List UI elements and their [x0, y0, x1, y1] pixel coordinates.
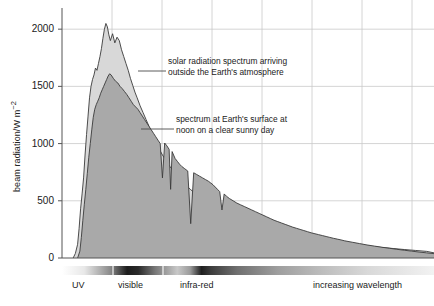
band-label-uv: UV: [72, 280, 85, 290]
annotation-line: solar radiation spectrum arriving: [168, 56, 287, 67]
annotation-line: spectrum at Earth's surface at: [176, 114, 287, 125]
y-axis-tick-500: 500: [14, 195, 54, 206]
annotation-line: outside the Earth's atmosphere: [168, 67, 287, 78]
y-axis-tick-0: 0: [14, 252, 54, 263]
outer-spectrum-annotation: solar radiation spectrum arrivingoutside…: [168, 56, 287, 78]
surface-spectrum-annotation: spectrum at Earth's surface atnoon on a …: [176, 114, 287, 136]
x-axis-label: increasing wavelength: [313, 280, 402, 290]
band-label-infra-red: infra-red: [180, 280, 214, 290]
axis-ticks: [58, 29, 62, 258]
spectrum-color-bar: [62, 266, 434, 275]
solar-spectrum-chart: [0, 0, 434, 306]
y-axis-tick-1500: 1500: [14, 80, 54, 91]
band-label-visible: visible: [118, 280, 143, 290]
y-axis-tick-2000: 2000: [14, 23, 54, 34]
annotation-line: noon on a clear sunny day: [176, 125, 287, 136]
y-axis-tick-1000: 1000: [14, 138, 54, 149]
